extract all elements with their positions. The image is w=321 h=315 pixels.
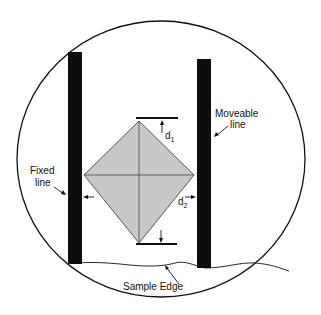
moveable-line-bar bbox=[197, 59, 211, 268]
d1-label: d1 bbox=[165, 130, 175, 143]
indentation-diamond bbox=[84, 121, 194, 243]
indentation-measurement-diagram: Fixed line Moveable line d1 d2 Sample Ed… bbox=[0, 0, 321, 315]
fixed-line-label-2: line bbox=[35, 177, 51, 188]
sample-edge-label: Sample Edge bbox=[123, 281, 183, 292]
fixed-line-label: Fixed bbox=[30, 165, 54, 176]
d2-subscript: 2 bbox=[184, 202, 188, 209]
left-arrow-icon bbox=[83, 195, 94, 199]
d1-arrow-icon bbox=[160, 120, 164, 133]
moveable-line-label: Moveable bbox=[215, 108, 259, 119]
moveable-line-label-2: line bbox=[230, 119, 246, 130]
bottom-arrow-icon bbox=[159, 230, 163, 243]
fixed-line-leader-arrow-icon bbox=[54, 187, 66, 195]
d2-label: d2 bbox=[178, 196, 188, 209]
fixed-line-bar bbox=[68, 52, 82, 264]
sample-edge-line bbox=[67, 262, 289, 271]
moveable-line-leader-arrow-icon bbox=[214, 126, 228, 137]
d2-arrow-icon bbox=[185, 195, 196, 199]
d1-subscript: 1 bbox=[171, 136, 175, 143]
